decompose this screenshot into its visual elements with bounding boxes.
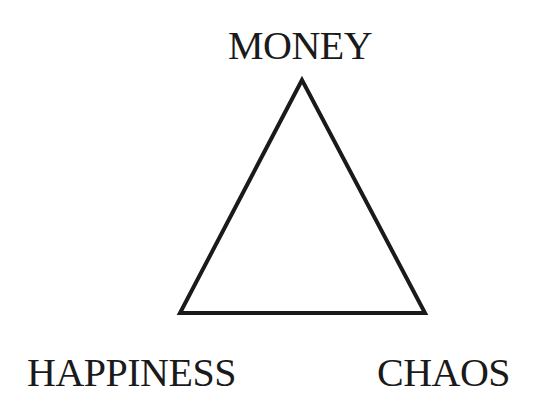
vertex-label-bottom-left: HAPPINESS xyxy=(27,353,236,393)
vertex-label-bottom-right: CHAOS xyxy=(377,353,510,393)
vertex-label-top: MONEY xyxy=(228,26,372,66)
